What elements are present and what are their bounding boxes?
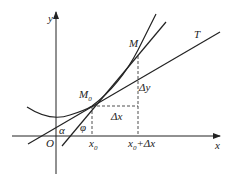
point-m-label: M bbox=[129, 38, 138, 49]
x-axis-label: x bbox=[215, 140, 220, 151]
tangent-label: T bbox=[194, 29, 200, 40]
delta-x-label: Δx bbox=[111, 111, 122, 122]
y-axis-label: y bbox=[48, 13, 53, 24]
diagram-canvas bbox=[0, 0, 235, 174]
x0-plus-dx-label: x0+Δx bbox=[128, 138, 155, 152]
tangent-line bbox=[28, 32, 220, 144]
delta-y-label: Δy bbox=[139, 82, 150, 93]
x0-label: x0 bbox=[89, 138, 97, 152]
point-m0-label: M0 bbox=[79, 89, 92, 103]
phi-label: φ bbox=[80, 122, 86, 133]
secant-line bbox=[62, 22, 166, 146]
origin-label: O bbox=[46, 138, 54, 149]
alpha-label: α bbox=[59, 125, 65, 136]
